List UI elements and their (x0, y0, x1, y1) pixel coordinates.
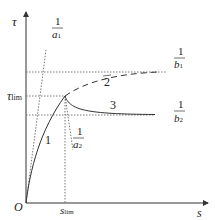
y-axis-label: τ (12, 14, 18, 29)
asymptote-b2-label: 1 b2 (174, 98, 185, 124)
tangent-a2-line (65, 96, 73, 150)
svg-text:b2: b2 (174, 112, 184, 124)
origin-label: O (14, 200, 23, 214)
tau-lim-label: τlim (7, 89, 23, 103)
curve-3-label: 3 (110, 98, 116, 112)
curve-1 (26, 96, 65, 203)
svg-text:a1: a1 (52, 28, 62, 40)
svg-text:1: 1 (55, 15, 61, 27)
svg-text:a2: a2 (73, 138, 83, 150)
curve-2-label: 2 (104, 75, 110, 89)
svg-text:1: 1 (178, 98, 184, 110)
tangent-a1-line (26, 50, 46, 203)
slope-a1-label: 1 a1 (52, 15, 63, 40)
asymptote-b1-label: 1 b1 (174, 45, 185, 70)
s-lim-label: slim (60, 204, 74, 216)
svg-text:1: 1 (77, 125, 83, 137)
curve-2 (65, 72, 158, 96)
x-axis-label: s (197, 206, 202, 220)
curve-1-label: 1 (45, 133, 51, 147)
tau-s-diagram: τ s O τlim slim 1 a1 1 a2 1 b1 1 b2 1 2 … (0, 0, 215, 220)
slope-a2-label: 1 a2 (73, 125, 84, 150)
svg-text:b1: b1 (174, 58, 184, 70)
svg-text:1: 1 (178, 45, 184, 57)
